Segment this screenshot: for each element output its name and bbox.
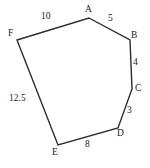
edge-length-ef: 12.5	[9, 94, 26, 104]
edge-length-bc: 4	[133, 58, 138, 68]
edge-length-ab: 5	[108, 14, 113, 24]
vertex-label-f: F	[8, 29, 13, 39]
polygon-svg	[0, 0, 150, 168]
hexagon-outline	[17, 18, 132, 145]
vertex-label-c: C	[135, 84, 141, 94]
vertex-label-a: A	[85, 5, 92, 15]
edge-length-fa: 10	[41, 12, 51, 22]
vertex-label-e: E	[52, 148, 58, 158]
vertex-label-d: D	[117, 129, 124, 139]
edge-length-de: 8	[85, 140, 90, 150]
vertex-label-b: B	[131, 31, 137, 41]
edge-length-cd: 3	[127, 106, 132, 116]
polygon-figure: A B C D E F 10 5 4 3 8 12.5	[0, 0, 150, 168]
